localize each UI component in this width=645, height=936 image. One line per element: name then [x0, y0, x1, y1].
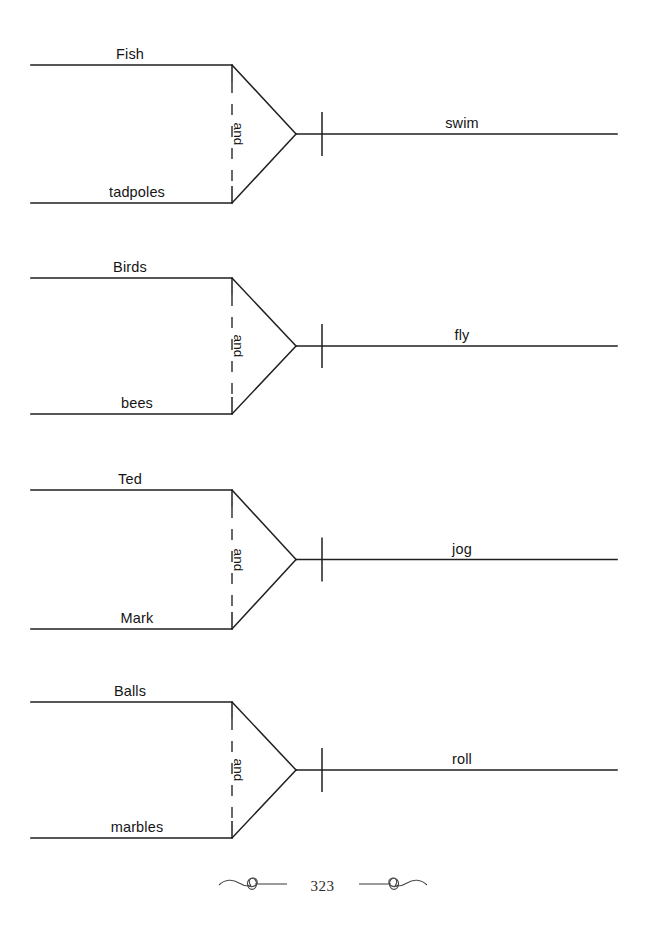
flourish-ornament-right-icon — [357, 872, 429, 900]
subject-bottom-word-2: bees — [121, 396, 153, 411]
subject-top-word-3: Ted — [118, 472, 142, 487]
subject-top-word-4: Balls — [114, 684, 146, 699]
subject-bottom-word-1: tadpoles — [109, 185, 165, 200]
verb-word-2: fly — [455, 328, 470, 343]
page-footer: 323 — [0, 866, 645, 906]
page-canvas: FishtadpolesswimandBirdsbeesflyandTedMar… — [0, 0, 645, 936]
page-number: 323 — [289, 878, 357, 895]
sentence-diagram-lines — [0, 0, 645, 936]
flourish-ornament-left-icon — [217, 872, 289, 900]
subject-bottom-word-3: Mark — [121, 611, 154, 626]
diagram-group-3 — [31, 490, 617, 629]
verb-word-1: swim — [445, 116, 479, 131]
subject-bottom-word-4: marbles — [111, 820, 164, 835]
verb-word-3: jog — [452, 541, 472, 556]
diagram-group-1 — [31, 65, 617, 203]
subject-top-word-1: Fish — [116, 47, 144, 62]
conjunction-word-1: and — [231, 122, 245, 145]
diagram-group-2 — [31, 278, 617, 414]
conjunction-word-4: and — [231, 758, 245, 781]
verb-word-4: roll — [452, 752, 472, 767]
conjunction-word-3: and — [231, 548, 245, 571]
subject-top-word-2: Birds — [113, 260, 147, 275]
conjunction-word-2: and — [231, 334, 245, 357]
